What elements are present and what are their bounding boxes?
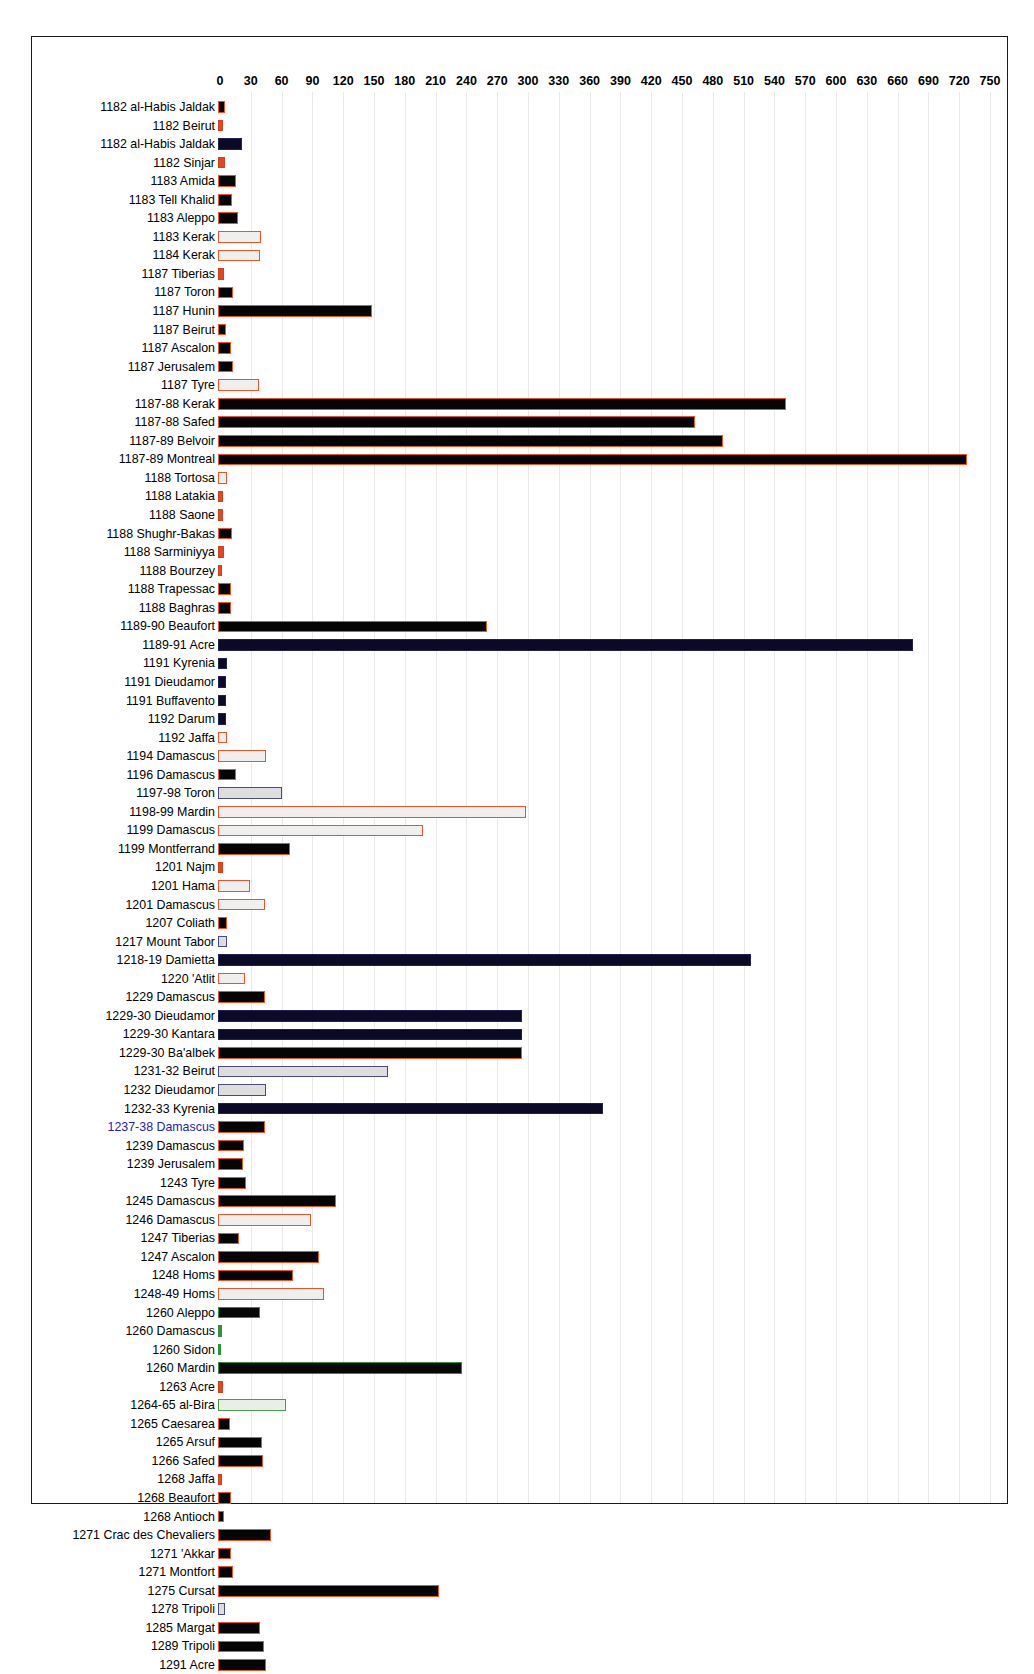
bar-row-label: 1271 Crac des Chevaliers bbox=[72, 1526, 215, 1545]
bar bbox=[218, 1603, 225, 1615]
bar-track bbox=[215, 1378, 1010, 1397]
bar-row-label: 1245 Damascus bbox=[125, 1192, 215, 1211]
bar-track bbox=[215, 1322, 1010, 1341]
bar-row-label: 1247 Ascalon bbox=[141, 1248, 215, 1267]
bar-row: 1199 Damascus bbox=[0, 821, 1034, 840]
bar-track bbox=[215, 896, 1010, 915]
bar-row: 1268 Antioch bbox=[0, 1508, 1034, 1527]
bar-row-label: 1196 Damascus bbox=[126, 766, 215, 785]
bar-row-label: 1264-65 al-Bira bbox=[130, 1396, 215, 1415]
bar-track bbox=[215, 1007, 1010, 1026]
bar bbox=[218, 194, 232, 206]
bar bbox=[218, 695, 226, 707]
bar-track bbox=[215, 450, 1010, 469]
bar-track bbox=[215, 747, 1010, 766]
bar-row: 1271 Crac des Chevaliers bbox=[0, 1526, 1034, 1545]
bar-row: 1189-91 Acre bbox=[0, 636, 1034, 655]
bar-row: 1271 'Akkar bbox=[0, 1545, 1034, 1564]
bar-track bbox=[215, 970, 1010, 989]
bar-row-label: 1243 Tyre bbox=[160, 1174, 215, 1193]
bar bbox=[218, 1511, 224, 1523]
bar-track bbox=[215, 1211, 1010, 1230]
bar bbox=[218, 212, 238, 224]
bar-row-label: 1239 Jerusalem bbox=[127, 1155, 215, 1174]
bar-row: 1199 Montferrand bbox=[0, 840, 1034, 859]
bar-row-label: 1201 Najm bbox=[155, 858, 215, 877]
bar-row-label: 1187 Beirut bbox=[153, 321, 215, 340]
bar-row: 1187-89 Belvoir bbox=[0, 432, 1034, 451]
bar-row-label: 1192 Jaffa bbox=[158, 729, 215, 748]
bar bbox=[218, 454, 967, 466]
bar-track bbox=[215, 1452, 1010, 1471]
bar-track bbox=[215, 1656, 1010, 1674]
bar bbox=[218, 1641, 264, 1653]
bar-row: 1191 Kyrenia bbox=[0, 654, 1034, 673]
bar-track bbox=[215, 617, 1010, 636]
bar-track bbox=[215, 1285, 1010, 1304]
bar bbox=[218, 1492, 231, 1504]
bar bbox=[218, 1659, 266, 1671]
bar-row: 1188 Bourzey bbox=[0, 562, 1034, 581]
bar-row-label: 1187 Tyre bbox=[161, 376, 215, 395]
bar-track bbox=[215, 1025, 1010, 1044]
bar-row: 1192 Darum bbox=[0, 710, 1034, 729]
bar bbox=[218, 1362, 462, 1374]
bar-track bbox=[215, 933, 1010, 952]
bar-track bbox=[215, 1563, 1010, 1582]
bar-track bbox=[215, 525, 1010, 544]
bar-track bbox=[215, 1526, 1010, 1545]
bar-track bbox=[215, 654, 1010, 673]
x-tick-0: 0 bbox=[217, 74, 224, 88]
bar bbox=[218, 1177, 246, 1189]
bar bbox=[218, 602, 231, 614]
bar-row: 1201 Damascus bbox=[0, 896, 1034, 915]
bar-track bbox=[215, 1100, 1010, 1119]
bar-track bbox=[215, 228, 1010, 247]
bar-row: 1246 Damascus bbox=[0, 1211, 1034, 1230]
bar-row-label: 1188 Sarminiyya bbox=[124, 543, 215, 562]
bar-track bbox=[215, 413, 1010, 432]
bar-row-label: 1229 Damascus bbox=[125, 988, 215, 1007]
bar bbox=[218, 565, 222, 577]
bar-row: 1198-99 Mardin bbox=[0, 803, 1034, 822]
x-tick-510: 510 bbox=[733, 74, 754, 88]
bar bbox=[218, 1437, 262, 1449]
bar-track bbox=[215, 1637, 1010, 1656]
bar bbox=[218, 305, 372, 317]
bar-row: 1260 Sidon bbox=[0, 1341, 1034, 1360]
bar-row: 1197-98 Toron bbox=[0, 784, 1034, 803]
bar-row: 1285 Margat bbox=[0, 1619, 1034, 1638]
bar bbox=[218, 1585, 439, 1597]
x-tick-450: 450 bbox=[672, 74, 693, 88]
bar-row-label: 1188 Latakia bbox=[145, 487, 215, 506]
bar-row-label: 1265 Arsuf bbox=[156, 1433, 215, 1452]
bar-row-label: 1191 Dieudamor bbox=[124, 673, 215, 692]
bar-track bbox=[215, 321, 1010, 340]
bar-row-label: 1218-19 Damietta bbox=[117, 951, 216, 970]
bar bbox=[218, 1288, 324, 1300]
bar-row-label: 1183 Kerak bbox=[153, 228, 215, 247]
bar-row-label: 1260 Sidon bbox=[152, 1341, 215, 1360]
x-tick-330: 330 bbox=[548, 74, 569, 88]
bar-row-label: 1201 Damascus bbox=[125, 896, 215, 915]
bar-row-label: 1187 Tiberias bbox=[142, 265, 215, 284]
bar-row-label: 1188 Baghras bbox=[139, 599, 215, 618]
bar-track bbox=[215, 98, 1010, 117]
bar-row: 1201 Najm bbox=[0, 858, 1034, 877]
bar bbox=[218, 472, 227, 484]
bar-track bbox=[215, 1600, 1010, 1619]
bar bbox=[218, 1529, 271, 1541]
bar-row: 1237-38 Damascus bbox=[0, 1118, 1034, 1137]
bar-track bbox=[215, 209, 1010, 228]
bar-row-label: 1239 Damascus bbox=[125, 1137, 215, 1156]
bar-track bbox=[215, 506, 1010, 525]
bar-row: 1239 Jerusalem bbox=[0, 1155, 1034, 1174]
bar-row-label: 1183 Aleppo bbox=[147, 209, 215, 228]
bar bbox=[218, 1307, 260, 1319]
bar-track bbox=[215, 1081, 1010, 1100]
bar-row: 1182 al-Habis Jaldak bbox=[0, 98, 1034, 117]
bar bbox=[218, 583, 231, 595]
bar-row: 1248 Homs bbox=[0, 1266, 1034, 1285]
bar-track bbox=[215, 154, 1010, 173]
bar-row: 1268 Beaufort bbox=[0, 1489, 1034, 1508]
